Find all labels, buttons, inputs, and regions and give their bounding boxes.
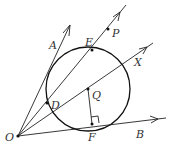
label-b: B: [135, 128, 144, 141]
ray-op: [18, 5, 126, 136]
label-p: P: [111, 27, 120, 40]
point-d: [46, 102, 49, 105]
point-o: [16, 134, 19, 137]
geometry-diagram: O D E P Q F A X B: [0, 0, 170, 144]
ray-oa: [18, 25, 70, 136]
label-e: E: [84, 36, 93, 49]
point-f: [91, 123, 94, 126]
arrow-a-icon: [63, 25, 70, 36]
label-q: Q: [92, 89, 101, 102]
point-q: [87, 88, 90, 91]
label-o: O: [5, 131, 14, 144]
label-x: X: [133, 56, 143, 69]
label-f: F: [87, 131, 96, 144]
label-a: A: [48, 39, 57, 52]
label-d: D: [50, 99, 60, 112]
point-p: [107, 28, 110, 31]
